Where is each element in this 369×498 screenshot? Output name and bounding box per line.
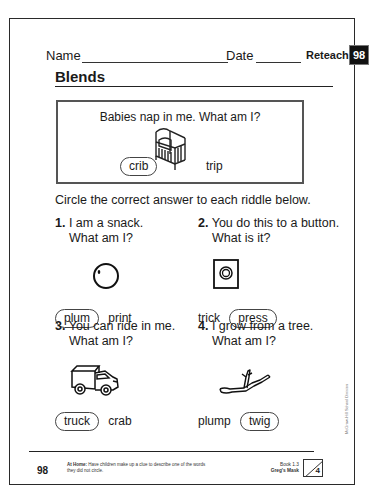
riddle-1: 1. I am a snack. What am I? plum print: [55, 216, 205, 328]
riddle-question-line1: I grow from a tree.: [212, 319, 313, 333]
choice[interactable]: crab: [102, 413, 137, 430]
riddle-number: 2.: [198, 216, 208, 230]
lesson-number: 4: [316, 466, 320, 475]
riddle-number: 4.: [198, 319, 208, 333]
name-blank[interactable]: [82, 62, 228, 63]
riddle-question-line2: What am I?: [55, 334, 175, 349]
riddle-choices: truck crab: [55, 412, 138, 431]
twig-icon: [218, 367, 274, 397]
riddle-number: 1.: [55, 216, 65, 230]
choice-circled[interactable]: truck: [55, 412, 99, 431]
story-title: Greg's Mask: [257, 468, 299, 474]
example-answer-other[interactable]: trip: [206, 159, 223, 173]
riddle-question-line1: You can ride in me.: [69, 319, 176, 333]
date-blank[interactable]: [256, 62, 301, 63]
at-home-label: At Home:: [67, 462, 87, 467]
at-home-note: At Home: Have children make up a clue to…: [67, 462, 207, 474]
riddle-question-line2: What am I?: [198, 334, 313, 349]
riddle-number: 3.: [55, 319, 65, 333]
lesson-box: 4: [303, 459, 323, 477]
example-box: Babies nap in me. What am I? crib trip: [56, 100, 304, 184]
plum-icon: [90, 260, 122, 292]
riddle-4: 4. I grow from a tree. What am I? plump …: [198, 319, 348, 431]
riddle-3: 3. You can ride in me. What am I? truck …: [55, 319, 205, 431]
title-divider: [55, 86, 333, 87]
riddle-question-line1: I am a snack.: [69, 216, 143, 230]
at-home-text: Have children make up a clue to describe…: [67, 462, 205, 473]
worksheet-page: Name Date Reteach 98 Blends Babies nap i…: [9, 18, 355, 485]
button-icon: [212, 258, 240, 290]
diagonal-line-icon: [304, 460, 323, 477]
crib-icon: [153, 126, 189, 170]
choice[interactable]: plump: [198, 413, 237, 430]
publisher-credit: McGraw-Hill School Division: [344, 384, 349, 434]
page-title: Blends: [55, 68, 105, 85]
reteach-label: Reteach: [306, 49, 349, 61]
book-info: Book 1.3 Greg's Mask: [257, 462, 299, 474]
header: Name Date Reteach 98: [46, 48, 332, 66]
footer-divider: [29, 451, 314, 452]
reteach-number-badge: 98: [349, 45, 369, 65]
riddle-question-line2: What is it?: [198, 231, 339, 246]
footer-page-number: 98: [37, 465, 48, 476]
riddle-choices: plump twig: [198, 412, 279, 431]
choice-circled[interactable]: twig: [240, 412, 279, 431]
example-answer-circled[interactable]: crib: [120, 157, 157, 176]
date-label: Date: [226, 48, 253, 63]
name-label: Name: [46, 48, 81, 63]
instructions: Circle the correct answer to each riddle…: [55, 193, 311, 207]
riddle-question-line1: You do this to a button.: [212, 216, 339, 230]
truck-icon: [69, 363, 121, 397]
example-question: Babies nap in me. What am I?: [58, 110, 302, 124]
riddle-2: 2. You do this to a button. What is it? …: [198, 216, 348, 328]
riddle-question-line2: What am I?: [55, 231, 143, 246]
